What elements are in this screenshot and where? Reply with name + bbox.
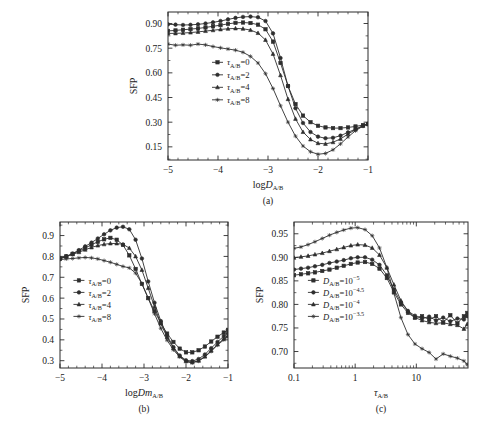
data-marker — [427, 350, 431, 354]
data-marker — [335, 230, 339, 234]
data-marker — [342, 264, 345, 267]
x-axis-tick-label: −1 — [223, 373, 233, 383]
data-marker — [339, 126, 342, 129]
series-line — [294, 245, 467, 329]
y-axis-title: SFP — [128, 77, 139, 94]
data-marker — [256, 61, 260, 65]
data-marker — [264, 28, 267, 31]
data-marker — [279, 73, 283, 77]
y-axis-tick-label: 0.7 — [42, 273, 54, 283]
data-marker — [279, 56, 283, 60]
panel-caption: (a) — [263, 196, 274, 207]
data-marker — [316, 124, 319, 127]
data-marker — [292, 274, 295, 277]
data-marker — [89, 256, 93, 260]
data-marker — [181, 23, 185, 27]
data-marker — [301, 144, 305, 148]
series-group — [292, 226, 469, 367]
series-group — [58, 225, 230, 365]
data-marker — [256, 15, 260, 19]
legend-label: τA/B=4 — [88, 300, 111, 311]
x-axis-title: τA/B — [374, 387, 388, 399]
data-marker — [301, 121, 305, 125]
x-axis-tick-label: −1 — [363, 165, 373, 175]
legend-label: τA/B=2 — [227, 70, 250, 81]
series-line — [168, 17, 368, 139]
x-axis-title: logDA/B — [253, 179, 284, 191]
data-marker — [159, 326, 163, 330]
x-axis-title: logDmA/B — [125, 387, 163, 399]
x-axis-tick-label: 0.1 — [288, 373, 300, 383]
data-marker — [462, 359, 466, 363]
data-marker — [271, 86, 275, 90]
data-marker — [316, 152, 320, 156]
x-axis-tick-label: −2 — [181, 373, 191, 383]
data-marker — [455, 356, 459, 360]
data-marker — [196, 23, 200, 27]
data-marker — [311, 314, 315, 318]
data-marker — [115, 226, 119, 230]
data-marker — [456, 317, 460, 321]
data-marker — [184, 360, 188, 364]
data-marker — [286, 97, 290, 101]
legend: τA/B=0τA/B=2τA/B=4τA/B=8 — [212, 57, 250, 106]
y-axis-title: SFP — [20, 286, 31, 303]
chart-panel-c: 0.11100.700.750.800.850.900.95SFPτA/B(c)… — [238, 214, 474, 420]
y-axis-tick-label: 0.95 — [271, 229, 288, 239]
data-marker — [166, 42, 170, 46]
data-marker — [449, 314, 452, 317]
legend-label: DA/B=10−4.5 — [322, 286, 364, 298]
series-line — [294, 257, 467, 321]
data-marker — [216, 61, 219, 64]
x-axis-tick-label: −3 — [139, 373, 149, 383]
plot-frame — [60, 222, 228, 368]
y-axis-tick-label: 0.90 — [145, 19, 162, 29]
data-marker — [134, 267, 137, 270]
data-marker — [293, 134, 297, 138]
y-axis-tick-label: 0.80 — [271, 300, 288, 310]
series-group — [166, 15, 370, 157]
data-marker — [256, 23, 259, 26]
data-marker — [222, 338, 226, 342]
data-marker — [211, 25, 214, 28]
data-marker — [346, 135, 350, 139]
data-marker — [190, 361, 194, 365]
data-marker — [115, 262, 119, 266]
data-marker — [215, 343, 219, 347]
y-axis-tick-label: 0.90 — [271, 253, 288, 263]
data-marker — [338, 142, 342, 146]
data-marker — [286, 84, 290, 88]
data-marker — [77, 314, 81, 318]
data-marker — [134, 271, 138, 275]
data-marker — [77, 256, 81, 260]
data-marker — [77, 279, 80, 282]
data-marker — [109, 229, 113, 233]
data-marker — [306, 243, 310, 247]
chart-svg-a: −5−4−3−2−10.150.300.450.600.750.90SFPlog… — [112, 4, 374, 212]
data-marker — [263, 72, 267, 76]
data-marker — [218, 46, 222, 50]
y-axis-tick-label: 0.85 — [271, 276, 288, 286]
data-marker — [219, 19, 223, 23]
panel-caption: (c) — [376, 404, 387, 415]
figure-container: −5−4−3−2−10.150.300.450.600.750.90SFPlog… — [0, 0, 478, 426]
data-marker — [349, 256, 353, 260]
data-marker — [134, 238, 138, 242]
data-marker — [356, 226, 360, 230]
data-marker — [219, 23, 222, 26]
plot-frame — [294, 222, 468, 368]
legend-label: DA/B=10−3.5 — [322, 310, 364, 322]
data-marker — [178, 355, 182, 359]
data-marker — [189, 23, 193, 27]
data-marker — [226, 18, 230, 22]
data-marker — [342, 228, 346, 232]
y-axis-tick-label: 0.5 — [42, 314, 54, 324]
data-marker — [324, 136, 328, 140]
y-axis-tick-label: 0.6 — [42, 294, 54, 304]
data-marker — [392, 291, 396, 295]
data-marker — [324, 126, 327, 129]
data-marker — [313, 264, 317, 268]
legend: τA/B=0τA/B=2τA/B=4τA/B=8 — [73, 276, 111, 323]
y-axis-tick-label: 0.4 — [42, 335, 54, 345]
data-marker — [366, 121, 370, 125]
